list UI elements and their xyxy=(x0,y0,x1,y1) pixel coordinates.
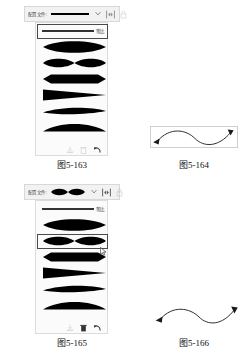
width-profile-5-icon xyxy=(42,103,112,119)
add-profile-icon[interactable] xyxy=(66,146,74,154)
caption-5-164: 图5-164 xyxy=(152,158,236,171)
profile-list-item-3[interactable] xyxy=(36,71,107,87)
profile-list-item-2[interactable] xyxy=(36,233,107,249)
profile-dropdown-widget-165[interactable]: 配置文件: xyxy=(24,184,120,334)
figure-5-166 xyxy=(152,304,242,332)
flip-horizontal-icon[interactable] xyxy=(106,10,115,19)
profile-list-item-5[interactable] xyxy=(36,281,107,297)
profile-preview-swatch[interactable] xyxy=(50,185,86,199)
add-profile-icon[interactable] xyxy=(66,324,74,332)
figure-5-164 xyxy=(150,126,238,152)
figure-5-165: 配置文件: xyxy=(24,184,120,334)
delete-profile-icon[interactable] xyxy=(80,146,87,154)
profile-list-item-1[interactable] xyxy=(36,217,107,233)
profile-list-item-4[interactable] xyxy=(36,265,107,281)
width-profile-5-icon xyxy=(42,281,112,297)
profile-list-item-0[interactable]: 等比 xyxy=(36,23,107,39)
width-profile-4-icon xyxy=(42,87,112,103)
profile-list-item-3[interactable] xyxy=(36,249,107,265)
profile-preview-swatch[interactable] xyxy=(50,7,90,21)
chevron-down-icon[interactable] xyxy=(95,11,101,17)
width-profile-1-icon xyxy=(42,217,112,233)
profile-list-item-6[interactable] xyxy=(36,297,107,313)
lock-icon[interactable] xyxy=(116,188,123,197)
chevron-down-icon[interactable] xyxy=(91,189,97,195)
width-profile-4-icon xyxy=(42,265,112,281)
profile-toolbar-163[interactable]: 配置文件: xyxy=(24,6,120,22)
caption-5-163: 图5-163 xyxy=(32,158,112,171)
width-profile-6-icon xyxy=(42,297,112,313)
reset-profiles-icon[interactable] xyxy=(93,145,102,154)
profile-list-footer xyxy=(36,322,107,333)
width-profile-6-icon xyxy=(42,119,112,135)
profile-toolbar-label: 配置文件: xyxy=(28,189,47,195)
profile-list-item-label-0: 等比 xyxy=(96,28,104,34)
width-profile-3-icon xyxy=(42,71,112,87)
s-curve-uniform-stroke xyxy=(150,126,238,152)
profile-list-item-6[interactable] xyxy=(36,119,107,135)
s-curve-tapered-stroke xyxy=(152,304,242,332)
caption-5-165: 图5-165 xyxy=(32,336,112,349)
flip-horizontal-icon[interactable] xyxy=(102,188,111,197)
uniform-line-icon xyxy=(50,8,90,20)
width-profile-2-icon xyxy=(42,55,112,71)
mouse-cursor-icon xyxy=(100,242,107,260)
profile-list-item-label-0: 等比 xyxy=(96,206,104,212)
delete-profile-icon[interactable] xyxy=(80,324,87,332)
profile-list-item-1[interactable] xyxy=(36,39,107,55)
profile-list-163[interactable]: 等比 xyxy=(35,22,108,156)
profile-dropdown-widget-163[interactable]: 配置文件: xyxy=(24,6,120,156)
caption-5-166: 图5-166 xyxy=(152,336,236,349)
width-profile-1-icon xyxy=(42,39,112,55)
profile-toolbar-label: 配置文件: xyxy=(28,11,47,17)
figure-5-163: 配置文件: xyxy=(24,6,120,156)
profile-list-item-5[interactable] xyxy=(36,103,107,119)
profile-toolbar-165[interactable]: 配置文件: xyxy=(24,184,120,200)
reset-profiles-icon[interactable] xyxy=(93,323,102,332)
profile-list-item-4[interactable] xyxy=(36,87,107,103)
profile-list-165[interactable]: 等比 xyxy=(35,200,108,334)
profile-list-item-2[interactable] xyxy=(36,55,107,71)
profile-list-item-0[interactable]: 等比 xyxy=(36,201,107,217)
profile-list-footer xyxy=(36,144,107,155)
lock-icon[interactable] xyxy=(120,10,127,19)
width-profile-2-icon xyxy=(50,186,86,198)
